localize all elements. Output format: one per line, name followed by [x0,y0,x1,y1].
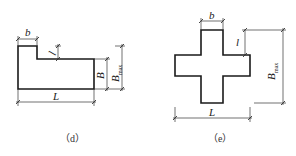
figure-d-dim-b: b [16,26,39,46]
figure-d-outline [18,46,94,89]
figure-d-caption: （d） [60,133,85,144]
figure-e-dim-L: L [173,106,252,122]
figure-d-dim-Bmax: B max [109,44,125,91]
figure-d: b l B B max [16,26,125,144]
figure-e-label-L: L [208,106,215,118]
figure-e-label-Bmax: B [265,73,277,80]
figure-d-label-Bmax-sub: max [117,65,123,75]
figure-d-dim-L: L [16,89,96,106]
figure-d-label-B: B [94,72,106,79]
diagram-canvas: b l B B max [0,0,296,156]
figure-d-label-b: b [25,26,31,38]
figure-d-label-Bmax: B [109,75,121,82]
figure-e-dim-Bmax: B max [242,28,286,105]
figure-e-label-l: l [236,36,239,48]
figure-e-label-b: b [209,9,215,21]
figure-e: b l B max L [173,9,286,144]
figure-e-dim-l: l [236,28,247,57]
figure-d-label-L: L [52,90,59,102]
figure-e-dim-b: b [199,9,225,30]
figure-e-caption: （e） [208,133,232,144]
figure-d-label-l: l [46,50,58,57]
figure-e-label-Bmax-sub: max [273,63,279,73]
